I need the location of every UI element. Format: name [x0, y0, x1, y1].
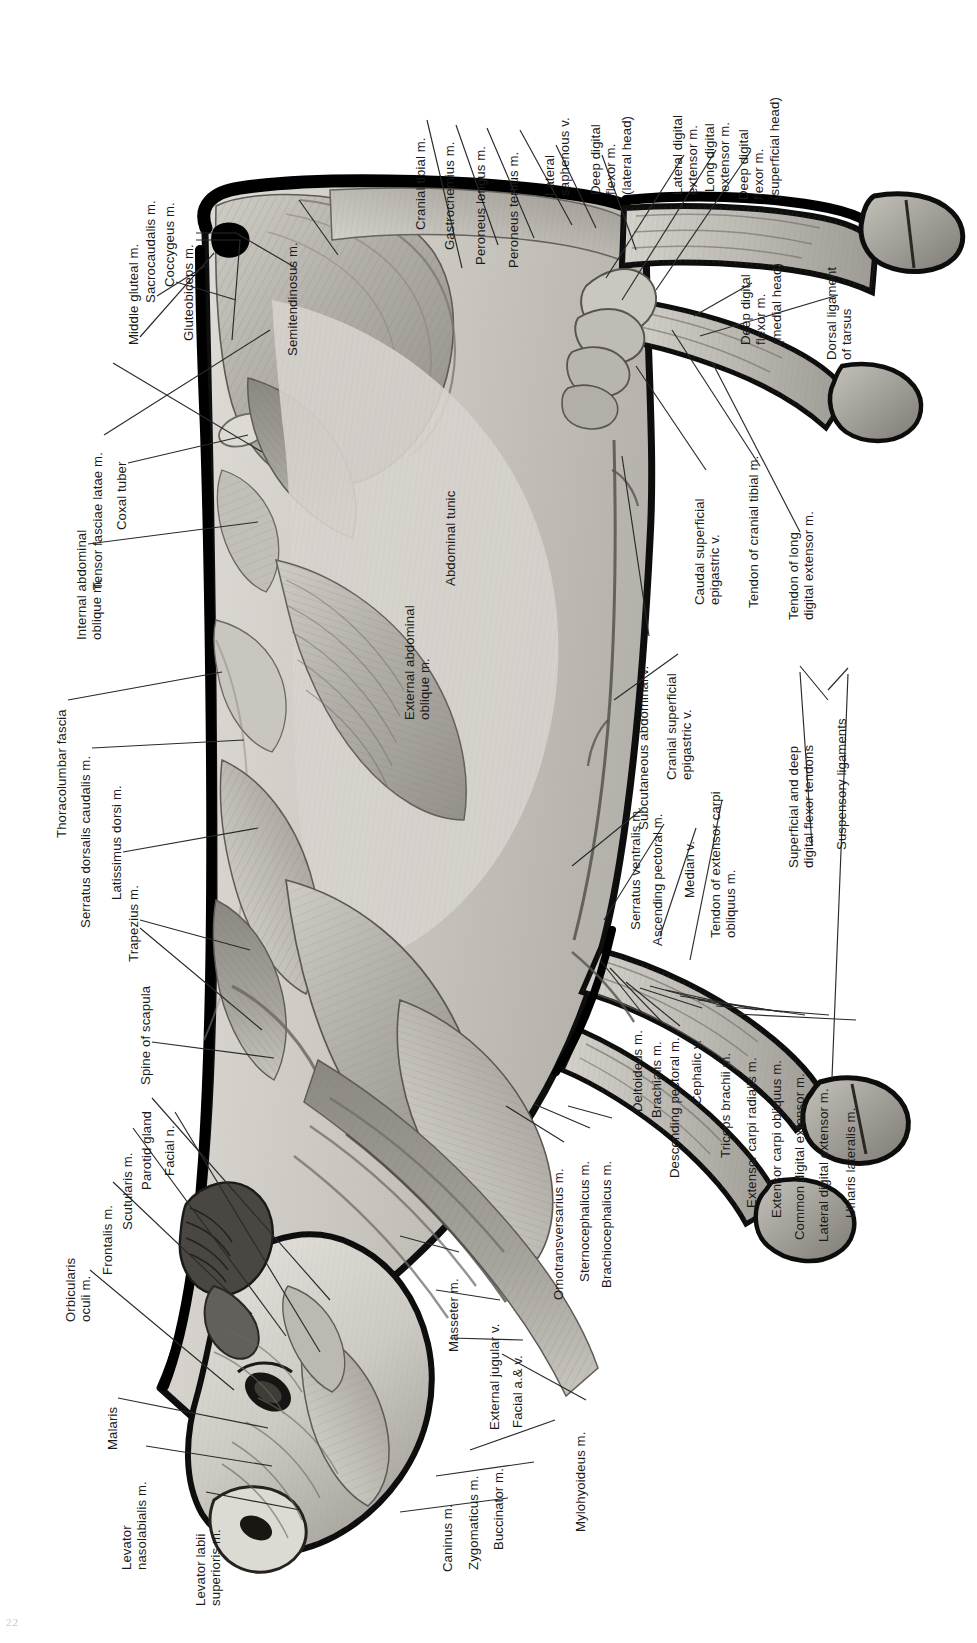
label-levator-labii-superioris: Levator labii superioris m. [193, 1529, 224, 1606]
label-abdominal-tunic: Abdominal tunic [443, 491, 458, 586]
label-sternocephalicus: Sternocephalicus m. [577, 1161, 592, 1282]
label-semitendinosus: Semitendinosus m. [285, 242, 300, 356]
label-malaris: Malaris [105, 1407, 120, 1450]
label-triceps-brachii: Triceps brachii m. [718, 1053, 733, 1158]
label-caninus: Caninus m. [440, 1504, 455, 1572]
label-gastrocnemius: Gastrocnemius m. [442, 141, 457, 250]
label-tendon-cranial-tibial: Tendon of cranial tibial m. [746, 456, 761, 608]
label-serratus-dorsalis-caudalis: Serratus dorsalis caudalis m. [78, 756, 93, 928]
label-lateral-digital-extensor-fore: Lateral digital extensor m. [816, 1088, 831, 1242]
label-peroneus-tertius: Peroneus tertius m. [506, 152, 521, 268]
label-scutularis: Scutularis m. [120, 1152, 135, 1230]
label-common-digital-extensor: Common digital extensor m. [792, 1073, 807, 1240]
label-subcutaneous-abdominal-v: Subcutaneous abdominal v. [636, 666, 651, 830]
label-coxal-tuber: Coxal tuber [114, 461, 129, 530]
label-latissimus-dorsi: Latissimus dorsi m. [109, 785, 124, 900]
label-levator-nasolabialis: Levator nasolabialis m. [119, 1481, 150, 1570]
label-dorsal-ligament-tarsus: Dorsal ligament of tarsus [824, 267, 855, 360]
label-deep-digital-flexor-lateral: Deep digital flexor m. (lateral head) [588, 116, 634, 195]
label-middle-gluteal: Middle gluteal m. [126, 244, 141, 345]
label-parotid-gland: Parotid gland [139, 1111, 154, 1190]
label-sacrocaudalis: Sacrocaudalis m. [143, 200, 158, 303]
label-suspensory-ligaments: Suspensory ligaments [834, 718, 849, 850]
label-lateral-digital-extensor: Lateral digital extensor m. [670, 115, 701, 195]
label-cranial-superficial-epigastric-v: Cranial superficial epigastric v. [664, 673, 695, 780]
label-median-v: Median v. [682, 841, 697, 898]
label-ascending-pectoral: Ascending pectoral m. [650, 813, 665, 946]
label-facial-a-v: Facial a.& v. [510, 1355, 525, 1428]
label-omotransversarius: Omotransversarius m. [551, 1168, 566, 1300]
label-brachialis: Brachialis m. [649, 1041, 664, 1118]
label-deep-digital-flexor-superficial: Deep digital flexor m. (superficial head… [736, 97, 782, 200]
label-extensor-carpi-radialis: Extensor carpi radialis m. [744, 1057, 759, 1208]
label-coccygeus: Coccygeus m. [162, 202, 177, 287]
label-trapezius: Trapezius m. [126, 885, 141, 962]
label-cranial-tibial: Cranial tibial m. [413, 137, 428, 230]
label-cephalic-v: Cephalic v. [689, 1040, 704, 1105]
label-thoracolumbar-fascia: Thoracolumbar fascia [54, 709, 69, 838]
label-brachiocephalicus: Brachiocephalicus m. [599, 1161, 614, 1288]
label-orbicularis-oculi: Orbicularis oculi m. [63, 1258, 94, 1322]
label-superficial-deep-digital-flexor-tendons: Superficial and deep digital flexor tend… [786, 745, 817, 868]
label-caudal-superficial-epigastric-v: Caudal superficial epigastric v. [692, 498, 723, 605]
label-zygomaticus: Zygomaticus m. [466, 1476, 481, 1570]
label-descending-pectoral: Descending pectoral m. [667, 1037, 682, 1178]
label-tendon-extensor-carpi-obliquus: Tendon of extensor carpi obliquus m. [708, 791, 739, 938]
label-peroneus-longus: Peroneus longus m. [473, 146, 488, 265]
label-masseter: Masseter m. [446, 1278, 461, 1352]
label-deep-digital-flexor-medial: Deep digital flexor m. (medial head) [738, 263, 784, 345]
anatomical-plate: Middle gluteal m. Sacrocaudalis m. Coccy… [0, 0, 977, 1643]
label-facial-n: Facial n. [162, 1125, 177, 1176]
label-ulnaris-lateralis: Ulnaris lateralis m. [843, 1108, 858, 1218]
label-spine-of-scapula: Spine of scapula [138, 986, 153, 1085]
label-internal-abdominal-oblique: Internal abdominal oblique m. [74, 530, 105, 640]
label-buccinator: Buccinator m. [491, 1468, 506, 1550]
label-deltoideus: Deltoideus m. [630, 1030, 645, 1112]
label-serratus-ventralis: Serratus ventralis m. [628, 807, 643, 930]
label-extensor-carpi-obliquus: Extensor carpi obliquus m. [769, 1060, 784, 1218]
label-mylohyoideus: Mylohyoideus m. [573, 1432, 588, 1532]
label-tendon-long-digital-extensor: Tendon of long digital extensor m. [786, 511, 817, 620]
label-lateral-saphenous-v: Lateral saphenous v. [542, 117, 573, 196]
label-external-jugular-v: External jugular v. [487, 1324, 502, 1430]
label-external-abdominal-oblique: External abdominal oblique m. [402, 605, 433, 720]
page-number: 22 [6, 1616, 19, 1628]
label-gluteobiceps: Gluteobiceps m. [181, 244, 196, 341]
label-frontalis: Frontalis m. [100, 1205, 115, 1275]
label-long-digital-extensor: Long digital extensor m. [702, 122, 733, 192]
